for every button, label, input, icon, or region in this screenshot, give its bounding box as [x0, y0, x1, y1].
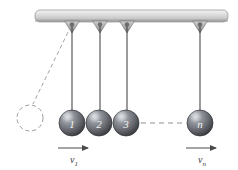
ball-2-label: 2 [96, 118, 102, 130]
velocity-arrow-1: v1 [58, 148, 88, 168]
pivot-group [65, 21, 208, 33]
ball-3: 3 [113, 110, 139, 136]
velocity-subscript-1: 1 [74, 160, 78, 168]
velocity-label-1: v1 [70, 154, 78, 168]
velocity-arrow-n: vn [186, 148, 216, 168]
ball-2: 2 [86, 110, 112, 136]
ball-n: n [187, 110, 213, 136]
ghost-ball-outline [17, 105, 43, 131]
ceiling-support [35, 10, 228, 22]
velocity-subscript-n: n [202, 160, 206, 168]
physics-figure: 1 2 3 n v1 vn [0, 0, 238, 170]
ball-1-label: 1 [69, 118, 75, 130]
ball-1: 1 [59, 110, 85, 136]
newtons-cradle-diagram: 1 2 3 n v1 vn [0, 0, 238, 170]
ball-3-label: 3 [122, 118, 129, 130]
velocity-label-n: vn [198, 154, 206, 168]
ball-n-label: n [197, 118, 203, 130]
string-raised-dashed [33, 26, 71, 104]
